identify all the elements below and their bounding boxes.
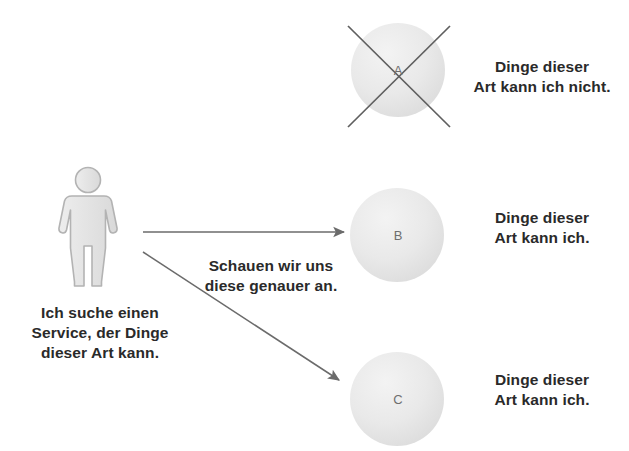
person-caption: Ich suche einen Service, der Dinge diese… [2,303,198,362]
node-a-letter: A [386,63,410,78]
node-b-label: Dinge dieser Art kann ich. [455,208,629,248]
node-c-label: Dinge dieser Art kann ich. [455,370,629,410]
node-c-letter: C [386,392,410,407]
person-icon [59,168,117,287]
arrow-caption: Schauen wir uns diese genauer an. [175,256,367,296]
node-a-label: Dinge dieser Art kann ich nicht. [455,57,629,97]
node-b-letter: B [386,228,410,243]
